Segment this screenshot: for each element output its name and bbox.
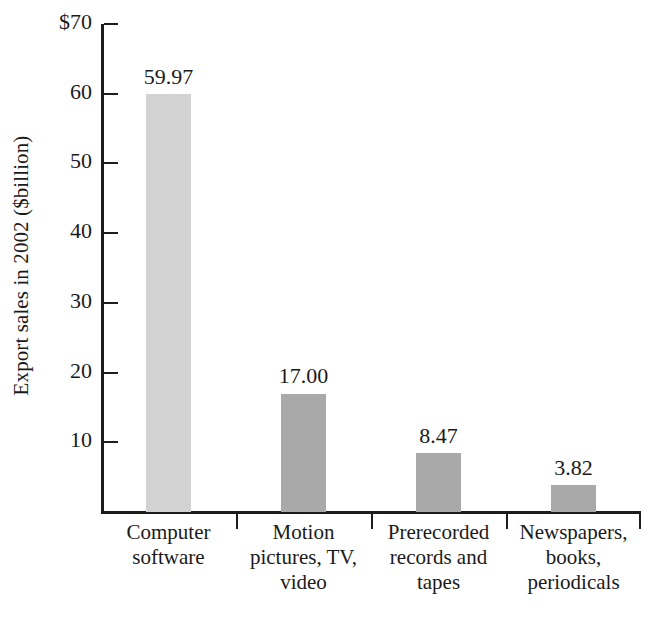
bar [146, 94, 191, 512]
y-tick-label: 50 [28, 150, 92, 172]
x-axis-label-line: tapes [371, 570, 506, 595]
y-axis-title-text: Export sales in 2002 ($billion) [10, 135, 35, 395]
x-axis-label-line: pictures, TV, [236, 545, 371, 570]
x-axis-label: Motionpictures, TV,video [236, 520, 371, 595]
x-axis-label-line: Newspapers, [506, 520, 641, 545]
y-tick-label: 20 [28, 360, 92, 382]
bar-value-label: 8.47 [379, 425, 499, 447]
bar [416, 453, 461, 512]
bar-value-label: 17.00 [244, 365, 364, 387]
bar-chart: Export sales in 2002 ($billion) $7060504… [0, 0, 657, 618]
y-tick-mark [104, 23, 118, 25]
y-tick-label: $70 [28, 11, 92, 33]
x-axis-label-line: software [101, 545, 236, 570]
x-axis-label-line: records and [371, 545, 506, 570]
x-axis-label: Prerecordedrecords andtapes [371, 520, 506, 595]
y-tick-label: 60 [28, 81, 92, 103]
x-axis-label-line: Motion [236, 520, 371, 545]
y-tick-mark [104, 441, 118, 443]
bar-value-label: 59.97 [109, 66, 229, 88]
x-axis-label: Computersoftware [101, 520, 236, 570]
bar [281, 394, 326, 513]
y-tick-label: 30 [28, 290, 92, 312]
y-tick-label: 10 [28, 429, 92, 451]
x-axis-label-line: periodicals [506, 570, 641, 595]
x-axis-label-line: video [236, 570, 371, 595]
x-axis-label: Newspapers,books,periodicals [506, 520, 641, 595]
y-tick-mark [104, 93, 118, 95]
y-tick-mark [104, 302, 118, 304]
y-tick-mark [104, 162, 118, 164]
bar-value-label: 3.82 [514, 457, 634, 479]
x-axis-label-line: Computer [101, 520, 236, 545]
y-tick-mark [104, 232, 118, 234]
x-axis-label-line: books, [506, 545, 641, 570]
y-tick-mark [104, 372, 118, 374]
y-tick-label: 40 [28, 220, 92, 242]
bar [551, 485, 596, 512]
x-axis-label-line: Prerecorded [371, 520, 506, 545]
